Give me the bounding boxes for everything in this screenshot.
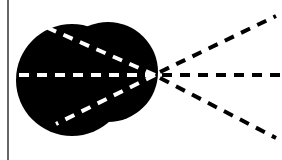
diagram-canvas: Black blob shape with dashed rays diverg… xyxy=(0,0,282,160)
black-blob-shape xyxy=(16,22,158,136)
outer-dashed-rays xyxy=(160,16,282,138)
ray-diagram xyxy=(0,0,282,160)
